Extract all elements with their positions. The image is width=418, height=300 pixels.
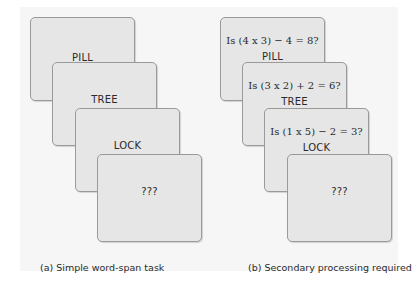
card-word: LOCK [76,140,179,151]
card-word: ??? [98,186,201,197]
card-question: Is (3 x 2) + 2 = 6? [243,80,346,91]
card-word: TREE [53,94,156,105]
caption-a: (a) Simple word-span task [40,262,164,273]
card-a-4: ??? [97,154,202,242]
card-word: LOCK [265,142,368,153]
card-question: Is (4 x 3) − 4 = 8? [221,35,324,46]
card-b-4: ??? [287,154,392,242]
caption-b: (b) Secondary processing required [248,262,412,273]
card-word: TREE [243,96,346,107]
card-word: PILL [221,51,324,62]
card-word: ??? [288,186,391,197]
card-question: Is (1 x 5) − 2 = 3? [265,126,368,137]
